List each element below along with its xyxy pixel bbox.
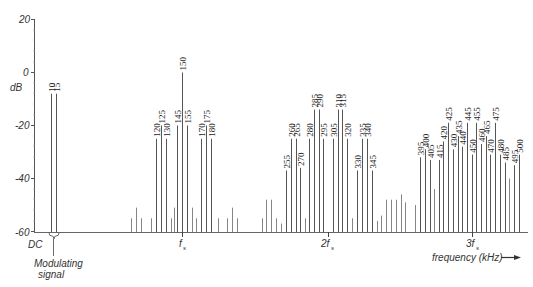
svg-text:s: s	[183, 245, 186, 251]
labeled-spectral-lines: 1015120125130145150155170175180255260265…	[47, 57, 525, 233]
peak-label-150: 150	[178, 57, 188, 71]
fs-marker: f s	[179, 238, 186, 251]
peak-label-440: 440	[458, 131, 468, 145]
peak-label-120: 120	[152, 123, 162, 137]
peak-label-270: 270	[296, 152, 306, 166]
y-tick-minus60: -60	[15, 227, 30, 238]
x-axis-label: frequency (kHz)	[432, 252, 503, 263]
modulating-label-line1: Modulating	[34, 258, 83, 269]
3fs-marker: 3f s	[466, 238, 479, 251]
y-axis-label: dB	[10, 82, 23, 93]
peak-label-255: 255	[282, 155, 292, 169]
y-tick-minus40: -40	[15, 173, 30, 184]
peak-label-500: 500	[515, 139, 525, 153]
y-tick-20: 20	[18, 14, 31, 25]
dc-label: DC	[28, 239, 43, 250]
peak-label-425: 425	[444, 107, 454, 121]
peak-label-330: 330	[353, 155, 363, 169]
peak-label-315: 315	[338, 94, 348, 108]
svg-text:s: s	[476, 245, 479, 251]
peak-label-125: 125	[157, 110, 167, 124]
peak-label-340: 340	[363, 123, 373, 137]
peak-label-15: 15	[52, 82, 62, 92]
peak-label-305: 305	[329, 123, 339, 137]
peak-label-265: 265	[292, 123, 302, 137]
peak-label-345: 345	[368, 155, 378, 169]
peak-label-295: 295	[319, 123, 329, 137]
svg-text:3f: 3f	[466, 238, 476, 249]
modulating-label-line2: signal	[38, 269, 65, 280]
peak-label-475: 475	[491, 107, 501, 121]
peak-label-420: 420	[439, 125, 449, 139]
peak-label-320: 320	[343, 123, 353, 137]
modulating-brace	[49, 233, 59, 239]
peak-label-180: 180	[207, 123, 217, 137]
2fs-marker: 2f s	[320, 238, 334, 251]
peak-label-170: 170	[197, 123, 207, 137]
arrow-right-icon	[501, 255, 521, 260]
svg-text:2f: 2f	[320, 238, 331, 249]
peak-label-290: 290	[315, 94, 325, 108]
spectrum-chart: 20 0 -20 -40 -60 dB DC Modulating signal…	[0, 0, 533, 287]
peak-label-280: 280	[305, 123, 315, 137]
svg-text:s: s	[331, 245, 334, 251]
peak-label-155: 155	[183, 110, 193, 124]
peak-label-130: 130	[162, 123, 172, 137]
y-tick-0: 0	[23, 67, 29, 78]
peak-label-455: 455	[472, 107, 482, 121]
peak-label-465: 465	[482, 120, 492, 134]
y-tick-minus20: -20	[15, 120, 30, 131]
peak-label-470: 470	[486, 139, 496, 153]
minor-spectral-lines	[132, 179, 510, 233]
y-axis	[31, 19, 35, 232]
peak-label-175: 175	[202, 110, 212, 124]
peak-label-145: 145	[173, 110, 183, 124]
